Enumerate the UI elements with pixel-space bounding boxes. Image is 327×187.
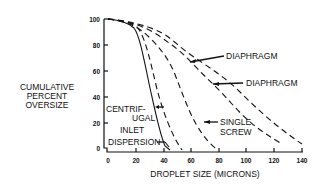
annotation-single-screw: SINGLE SCREW xyxy=(204,117,252,137)
svg-text:60: 60 xyxy=(187,157,195,164)
svg-text:DIAPHRAGM: DIAPHRAGM xyxy=(246,78,297,88)
svg-text:100: 100 xyxy=(241,157,252,164)
svg-text:100: 100 xyxy=(89,16,100,23)
svg-text:140: 140 xyxy=(297,157,308,164)
svg-text:0: 0 xyxy=(96,145,100,152)
svg-text:DIAPHRAGM: DIAPHRAGM xyxy=(226,51,277,61)
svg-text:80: 80 xyxy=(93,42,101,49)
svg-text:UGAL: UGAL xyxy=(132,113,155,123)
svg-text:120: 120 xyxy=(269,157,280,164)
x-tick-labels: 0 20 40 60 80 100 120 140 xyxy=(106,157,308,164)
svg-text:60: 60 xyxy=(93,68,101,75)
x-axis-label: DROPLET SIZE (MICRONS) xyxy=(150,169,260,179)
svg-text:80: 80 xyxy=(215,157,223,164)
svg-text:40: 40 xyxy=(160,157,168,164)
y-tick-labels: 100 80 60 40 20 0 xyxy=(89,16,100,152)
annotation-diaphragm-1: DIAPHRAGM xyxy=(190,51,277,63)
chart: CUMULATIVE PERCENT OVERSIZE 100 80 60 40… xyxy=(0,0,327,187)
svg-text:40: 40 xyxy=(93,94,101,101)
svg-text:20: 20 xyxy=(132,157,140,164)
svg-text:20: 20 xyxy=(93,120,101,127)
svg-text:SCREW: SCREW xyxy=(220,127,252,137)
svg-text:0: 0 xyxy=(106,157,110,164)
svg-text:SINGLE: SINGLE xyxy=(220,117,252,127)
y-axis-label: CUMULATIVE PERCENT OVERSIZE xyxy=(20,82,74,110)
svg-text:DISPERSION: DISPERSION xyxy=(108,137,160,147)
svg-text:OVERSIZE: OVERSIZE xyxy=(26,100,69,110)
svg-text:INLET: INLET xyxy=(120,125,144,135)
